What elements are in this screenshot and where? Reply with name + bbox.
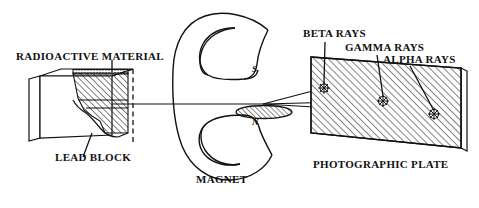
magnet-north-pole-face bbox=[236, 106, 292, 119]
alpha-rays-label: ALPHA RAYS bbox=[383, 53, 456, 65]
radioactive-material-label: RADIOACTIVE MATERIAL bbox=[16, 50, 164, 62]
beta-rays-label: BETA RAYS bbox=[303, 27, 366, 39]
radioactive-material-band bbox=[73, 70, 128, 75]
gamma-rays-label: GAMMA RAYS bbox=[345, 41, 424, 53]
magnet-inner-lower-contour bbox=[199, 115, 272, 165]
magnet-label: MAGNET bbox=[196, 173, 247, 185]
magnet-north-pole-label: N bbox=[252, 117, 259, 127]
magnet-south-pole-label: S bbox=[252, 64, 257, 74]
plate-thickness-edge bbox=[461, 68, 467, 151]
lead-block bbox=[29, 60, 133, 157]
lead-block-left-face bbox=[29, 76, 40, 141]
magnet-outer-contour bbox=[173, 13, 272, 180]
magnet-cavity-upper-left bbox=[200, 28, 235, 75]
horseshoe-magnet bbox=[173, 13, 292, 180]
radioactivity-diagram: RADIOACTIVE MATERIAL LEAD BLOCK MAGNET S… bbox=[0, 0, 479, 208]
photographic-plate-label: PHOTOGRAPHIC PLATE bbox=[313, 158, 448, 170]
lead-block-label: LEAD BLOCK bbox=[55, 151, 131, 163]
magnet-cavity-lower-left bbox=[201, 124, 240, 165]
